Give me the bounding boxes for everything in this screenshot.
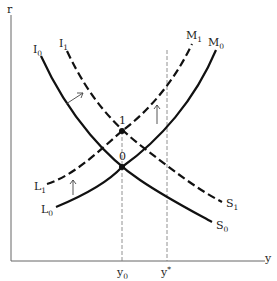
x-axis-label: y — [264, 252, 272, 265]
label-i1: I1 — [59, 37, 68, 52]
label-l1: L1 — [34, 180, 46, 195]
curve-i1-s1 — [67, 51, 222, 202]
label-s0: S0 — [216, 219, 229, 234]
ystar-marker: y* — [160, 265, 171, 279]
arrow-lm-shift-left-icon — [70, 180, 76, 195]
arrow-is-shift-icon — [66, 93, 83, 104]
arrow-lm-shift-right-icon — [154, 105, 160, 124]
label-l0: L0 — [41, 203, 53, 218]
curve-i0-s0 — [41, 56, 212, 222]
label-s1: S1 — [226, 197, 238, 212]
y0-marker: y0 — [116, 266, 128, 281]
y-axis-label: r — [7, 3, 13, 16]
label-i0: I0 — [33, 43, 42, 58]
svg-text:y0: y0 — [116, 266, 128, 281]
point-0 — [119, 164, 125, 170]
point-1-label: 1 — [119, 114, 126, 127]
is-lm-diagram: r y y0 y* I0 I1 M1 M0 L1 L0 S1 S0 1 0 — [0, 0, 277, 281]
point-1 — [119, 128, 125, 134]
svg-text:y*: y* — [160, 265, 171, 279]
point-0-label: 0 — [119, 150, 126, 163]
label-m0: M0 — [208, 36, 224, 51]
label-m1: M1 — [186, 29, 202, 44]
